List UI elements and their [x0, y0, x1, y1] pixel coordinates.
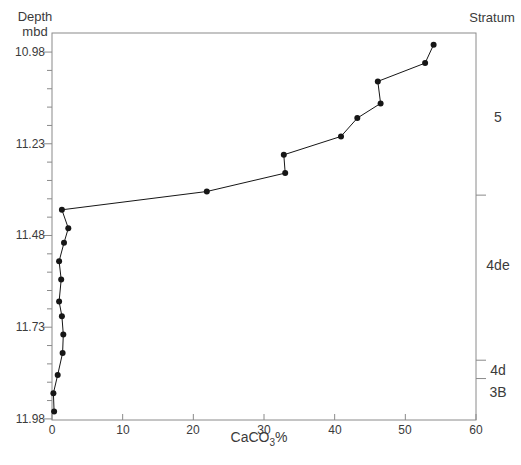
data-point [338, 133, 344, 139]
data-point [59, 313, 65, 319]
data-point [60, 350, 66, 356]
plot-frame [52, 33, 476, 420]
stratum-label-3B: 3B [478, 385, 518, 399]
data-point [56, 299, 62, 305]
plot-area [0, 0, 521, 465]
data-point [58, 277, 64, 283]
x-tick-label: 40 [320, 424, 350, 436]
y-tick-label: 11.73 [7, 321, 45, 333]
data-point [65, 225, 71, 231]
x-tick-label: 60 [461, 424, 491, 436]
data-line [53, 45, 433, 412]
data-point [61, 240, 67, 246]
data-point [354, 115, 360, 121]
stratum-label-4d: 4d [478, 363, 518, 377]
x-tick-label: 30 [249, 424, 279, 436]
data-point [50, 390, 56, 396]
y-axis-title: Depth mbd [8, 9, 62, 39]
data-point [375, 78, 381, 84]
data-point [55, 372, 61, 378]
data-point [204, 189, 210, 195]
stratum-label-5: 5 [478, 110, 518, 124]
y-tick-label: 11.48 [7, 229, 45, 241]
data-point [281, 152, 287, 158]
data-point [282, 170, 288, 176]
x-tick-label: 10 [108, 424, 138, 436]
data-point [51, 409, 57, 415]
x-tick-label: 50 [390, 424, 420, 436]
data-point [422, 60, 428, 66]
y-axis-title-line1: Depth [8, 9, 62, 24]
data-point [59, 207, 65, 213]
right-axis-title: Stratum [464, 10, 520, 25]
stratum-label-4de: 4de [478, 258, 518, 272]
data-point [60, 332, 66, 338]
data-point [56, 258, 62, 264]
y-tick-label: 11.23 [7, 138, 45, 150]
data-point [431, 42, 437, 48]
caco3-depth-chart: Depth mbd Stratum CaCO3% 10.9811.2311.48… [0, 0, 521, 465]
y-axis-title-line2: mbd [8, 24, 62, 39]
x-tick-label: 20 [178, 424, 208, 436]
x-tick-label: 0 [37, 424, 67, 436]
y-tick-label: 10.98 [7, 46, 45, 58]
data-point [378, 100, 384, 106]
